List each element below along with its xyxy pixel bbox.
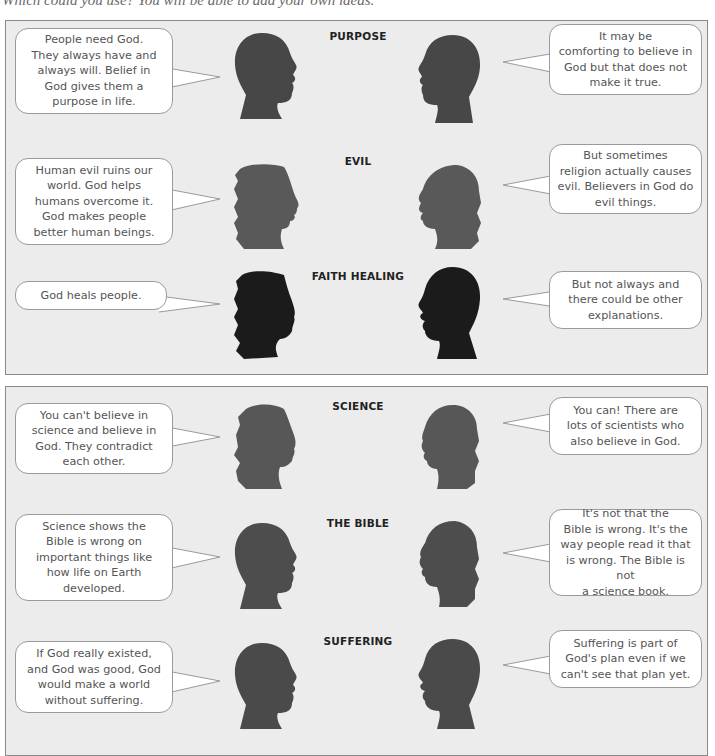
speech-bubble-right: But not always and there could be other …	[549, 271, 702, 329]
head-shape	[420, 521, 479, 607]
head-shape	[235, 643, 297, 729]
topic-label: SUFFERING	[306, 635, 410, 647]
topic-label: EVIL	[306, 155, 410, 167]
topic-label: PURPOSE	[306, 30, 410, 42]
speech-bubble-left: People need God. They always have and al…	[15, 28, 173, 114]
argument-row-purpose: PURPOSE People need God. They always hav…	[6, 21, 707, 139]
argument-row-evil: EVIL Human evil ruins our world. God hel…	[6, 139, 707, 257]
speech-bubble-left: Human evil ruins our world. God helps hu…	[15, 158, 173, 245]
topic-label: FAITH HEALING	[296, 270, 420, 282]
head-silhouette-facing-right-icon	[232, 31, 304, 121]
intro-instruction-text: Which could you use? You will be able to…	[2, 0, 374, 9]
argument-row-faith-healing: FAITH HEALING God heals people. But not …	[6, 257, 707, 375]
head-shape	[419, 165, 481, 249]
head-shape	[234, 271, 295, 359]
speech-bubble-right: But sometimes religion actually causes e…	[549, 144, 702, 214]
topic-label: THE BIBLE	[306, 517, 410, 529]
speech-bubble-right: Suffering is part of God's plan even if …	[549, 630, 702, 688]
speech-bubble-right: It's not that the Bible is wrong. It's t…	[549, 509, 702, 596]
speech-bubble-left: God heals people.	[15, 281, 167, 310]
speech-bubble-tail-left	[166, 537, 222, 577]
head-silhouette-facing-right-icon	[232, 641, 304, 731]
speech-bubble-tail-left	[166, 417, 222, 457]
head-silhouette-facing-right-icon	[232, 521, 304, 611]
argument-panel-1: PURPOSE People need God. They always hav…	[5, 20, 708, 375]
head-shape	[235, 33, 297, 119]
head-shape	[234, 405, 296, 490]
speech-bubble-right: You can! There are lots of scientists wh…	[549, 397, 702, 455]
argument-panel-2: SCIENCE You can't believe in science and…	[5, 386, 708, 756]
speech-bubble-tail-left	[158, 292, 222, 316]
speech-bubble-left: You can't believe in science and believe…	[15, 403, 173, 474]
speech-bubble-tail-left	[166, 56, 222, 96]
argument-row-suffering: SUFFERING If God really existed, and God…	[6, 623, 707, 753]
topic-label: SCIENCE	[306, 400, 410, 412]
head-silhouette-facing-left-icon	[411, 637, 483, 731]
argument-row-science: SCIENCE You can't believe in science and…	[6, 387, 707, 505]
head-shape	[235, 523, 297, 609]
argument-row-the-bible: THE BIBLE Science shows the Bible is wro…	[6, 505, 707, 623]
head-silhouette-facing-left-icon	[411, 265, 483, 361]
head-silhouette-facing-right-icon	[232, 269, 306, 361]
head-shape	[418, 35, 480, 123]
speech-bubble-tail-left	[166, 661, 222, 701]
speech-bubble-left: If God really existed, and God was good,…	[15, 641, 173, 713]
head-silhouette-facing-left-icon	[409, 403, 483, 491]
head-silhouette-facing-left-icon	[411, 33, 483, 125]
head-shape	[422, 405, 479, 489]
speech-bubble-right: It may be comforting to believe in God b…	[549, 24, 702, 95]
speech-bubble-left: Science shows the Bible is wrong on impo…	[15, 514, 173, 601]
head-shape	[234, 164, 299, 249]
head-shape	[418, 267, 480, 359]
head-silhouette-facing-right-icon	[232, 163, 306, 251]
head-silhouette-facing-left-icon	[409, 163, 483, 251]
speech-bubble-tail-left	[166, 179, 222, 219]
head-shape	[418, 639, 480, 729]
head-silhouette-facing-right-icon	[232, 403, 306, 491]
head-silhouette-facing-left-icon	[409, 519, 483, 609]
